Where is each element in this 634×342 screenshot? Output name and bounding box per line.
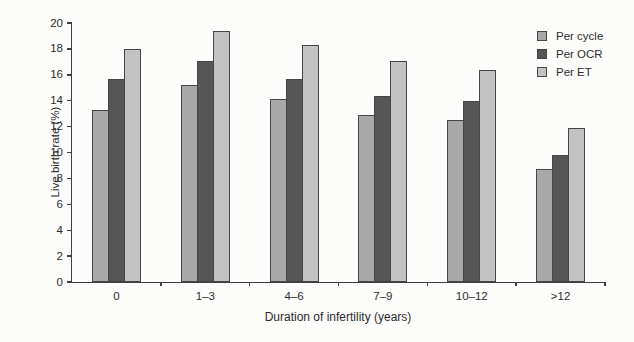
- legend-label: Per cycle: [556, 30, 603, 42]
- bar-per-ocr: [374, 96, 391, 282]
- bar-per-et: [568, 128, 585, 282]
- bar-per-et: [124, 49, 141, 282]
- x-tick-mark: [160, 282, 161, 286]
- y-tick-label: 12: [50, 121, 63, 133]
- bar-per-et: [213, 31, 230, 282]
- bar-per-ocr: [286, 79, 303, 282]
- x-tick-mark: [604, 282, 605, 286]
- y-tick-label: 6: [57, 199, 63, 211]
- legend-swatch-icon: [537, 49, 547, 59]
- bar-per-et: [479, 70, 496, 282]
- bar-group-10–12: [427, 23, 516, 282]
- x-tick-mark: [515, 282, 516, 286]
- legend-item-per-et: Per ET: [537, 63, 603, 81]
- bar-per-cycle: [536, 169, 553, 282]
- bar-group-4–6: [250, 23, 339, 282]
- bar-groups: [72, 23, 605, 282]
- legend-swatch-icon: [537, 67, 547, 77]
- x-tick-label: 4–6: [250, 290, 339, 302]
- bar-per-cycle: [270, 99, 287, 282]
- y-tick-label: 4: [57, 224, 63, 236]
- y-tick-label: 10: [50, 147, 63, 159]
- x-tick-label: >12: [516, 290, 605, 302]
- bar-per-cycle: [92, 110, 109, 282]
- bar-per-et: [302, 45, 319, 282]
- y-tick-label: 2: [57, 250, 63, 262]
- x-tick-label: 7–9: [338, 290, 427, 302]
- x-axis-title: Duration of infertility (years): [265, 310, 412, 324]
- y-tick-label: 18: [50, 43, 63, 55]
- bar-group-1–3: [161, 23, 250, 282]
- x-tick-mark: [427, 282, 428, 286]
- legend-item-per-ocr: Per OCR: [537, 45, 603, 63]
- legend-swatch-icon: [537, 31, 547, 41]
- legend-label: Per ET: [556, 66, 592, 78]
- bar-per-cycle: [358, 115, 375, 282]
- bar-group-0: [72, 23, 161, 282]
- y-tick-label: 8: [57, 173, 63, 185]
- x-tick-mark: [249, 282, 250, 286]
- y-tick-label: 0: [57, 276, 63, 288]
- x-tick-label: 1–3: [161, 290, 250, 302]
- bar-per-cycle: [447, 120, 464, 282]
- bar-per-et: [390, 61, 407, 282]
- figure-live-birth-rate-chart: Live birth rate (%) 02468101214161820 01…: [0, 0, 634, 342]
- y-tick-label: 16: [50, 69, 63, 81]
- bar-per-cycle: [181, 85, 198, 282]
- bar-group-7–9: [338, 23, 427, 282]
- y-tick-label: 20: [50, 17, 63, 29]
- bar-per-ocr: [463, 101, 480, 282]
- x-tick-label: 0: [72, 290, 161, 302]
- x-tick-mark: [338, 282, 339, 286]
- bar-per-ocr: [552, 155, 569, 282]
- bar-per-ocr: [197, 61, 214, 282]
- legend: Per cyclePer OCRPer ET: [537, 27, 603, 81]
- x-tick-label: 10–12: [427, 290, 516, 302]
- legend-label: Per OCR: [556, 48, 603, 60]
- bar-per-ocr: [108, 79, 125, 282]
- plot-area: 02468101214161820 01–34–67–910–12>12: [71, 23, 605, 283]
- y-tick-label: 14: [50, 95, 63, 107]
- x-axis-labels: 01–34–67–910–12>12: [72, 290, 605, 302]
- legend-item-per-cycle: Per cycle: [537, 27, 603, 45]
